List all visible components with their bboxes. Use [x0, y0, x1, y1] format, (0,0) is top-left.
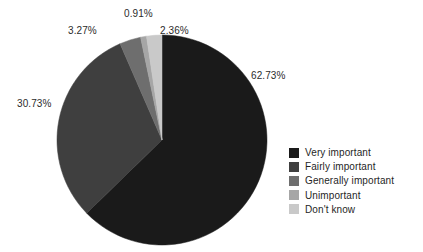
- slice-label-unimportant: 0.91%: [124, 8, 153, 19]
- legend-item-label: Don't know: [305, 204, 355, 215]
- legend-item: Fairly important: [289, 161, 394, 172]
- slice-label-fairly-important: 30.73%: [17, 98, 52, 109]
- legend-item-label: Fairly important: [305, 161, 376, 172]
- legend-item: Don't know: [289, 204, 394, 215]
- slice-label-very-important: 62.73%: [251, 70, 286, 81]
- slice-label-dont-know: 2.36%: [160, 25, 189, 36]
- legend-swatch-icon: [289, 176, 299, 186]
- legend-swatch-icon: [289, 190, 299, 200]
- legend-item-label: Very important: [305, 147, 371, 158]
- legend-swatch-icon: [289, 148, 299, 158]
- legend-swatch-icon: [289, 162, 299, 172]
- legend-item: Very important: [289, 147, 394, 158]
- legend-swatch-icon: [289, 204, 299, 214]
- legend-item-label: Generally important: [305, 175, 394, 186]
- pie-chart: 62.73% 30.73% 3.27% 0.91% 2.36% Very imp…: [0, 0, 423, 252]
- legend-item-label: Unimportant: [305, 190, 361, 201]
- chart-legend: Very importantFairly importantGenerally …: [289, 147, 394, 215]
- slice-label-generally-important: 3.27%: [68, 25, 97, 36]
- legend-item: Generally important: [289, 175, 394, 186]
- pie-slice-group: [57, 35, 267, 245]
- legend-item: Unimportant: [289, 190, 394, 201]
